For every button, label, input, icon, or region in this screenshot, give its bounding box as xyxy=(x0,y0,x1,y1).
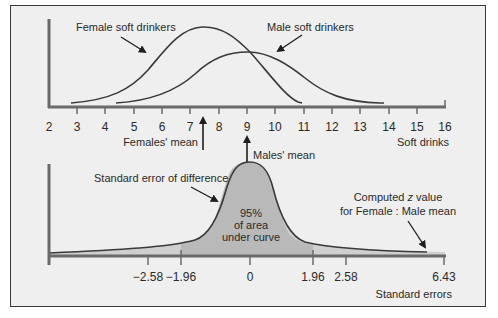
tick-16: 16 xyxy=(438,120,452,134)
svg-text:for Female : Male mean: for Female : Male mean xyxy=(340,205,456,217)
tick-4: 4 xyxy=(102,120,109,134)
bottom-tick-labels: −2.58 −1.96 0 1.96 2.58 6.43 xyxy=(133,270,456,284)
tick-neg-1-96: −1.96 xyxy=(166,270,197,284)
bottom-chart: −2.58 −1.96 0 1.96 2.58 6.43 Standard er… xyxy=(48,162,456,300)
se-label: Standard error of difference xyxy=(94,172,228,184)
top-chart: 2 3 4 5 6 7 8 9 10 11 12 13 14 15 16 Sof… xyxy=(46,19,452,162)
z-value-arrow-icon xyxy=(408,221,425,247)
tick-2: 2 xyxy=(46,120,53,134)
tick-3: 3 xyxy=(74,120,81,134)
males-mean-label: Males' mean xyxy=(253,149,315,161)
bottom-x-axis-label: Standard errors xyxy=(376,288,453,300)
chart-canvas: 2 3 4 5 6 7 8 9 10 11 12 13 14 15 16 Sof… xyxy=(0,0,498,318)
male-label: Male soft drinkers xyxy=(267,21,354,33)
tick-12: 12 xyxy=(325,120,339,134)
female-curve xyxy=(71,27,302,103)
tick-9: 9 xyxy=(244,120,251,134)
female-label: Female soft drinkers xyxy=(76,21,176,33)
tick-2-58: 2.58 xyxy=(334,270,358,284)
tick-8: 8 xyxy=(216,120,223,134)
top-x-axis-label: Soft drinks xyxy=(397,136,449,148)
tick-15: 15 xyxy=(410,120,424,134)
svg-text:under curve: under curve xyxy=(222,231,280,243)
male-arrow-icon xyxy=(278,35,302,51)
svg-text:Computed z value: Computed z value xyxy=(354,191,443,203)
tick-7: 7 xyxy=(187,120,194,134)
tick-5: 5 xyxy=(131,120,138,134)
svg-text:of area: of area xyxy=(234,219,269,231)
tick-1-96: 1.96 xyxy=(301,270,325,284)
tick-6: 6 xyxy=(159,120,166,134)
svg-text:95%: 95% xyxy=(240,207,262,219)
female-arrow-icon xyxy=(121,37,145,52)
tick-11: 11 xyxy=(298,120,311,134)
females-mean-label: Females' mean xyxy=(123,136,198,148)
tick-13: 13 xyxy=(353,120,367,134)
top-tick-labels: 2 3 4 5 6 7 8 9 10 11 12 13 14 15 16 xyxy=(46,120,452,134)
tick-0: 0 xyxy=(247,270,254,284)
se-arrow-icon xyxy=(191,187,217,201)
tick-14: 14 xyxy=(382,120,396,134)
tick-10: 10 xyxy=(268,120,282,134)
tick-neg-2-58: −2.58 xyxy=(133,270,164,284)
tick-6-43: 6.43 xyxy=(432,270,456,284)
z-value-label: Computed z value for Female : Male mean xyxy=(340,191,456,217)
